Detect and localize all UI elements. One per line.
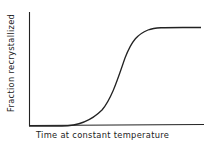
sigmoid-curve: [29, 27, 201, 126]
y-axis-label: Fraction recrystallized: [6, 22, 16, 112]
chart-plot: [0, 0, 213, 144]
x-axis-label: Time at constant temperature: [36, 130, 169, 140]
